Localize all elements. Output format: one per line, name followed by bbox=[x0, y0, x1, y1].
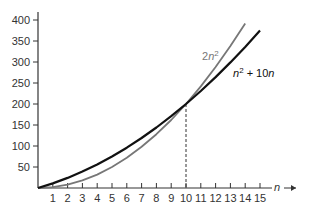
x-tick-label: 3 bbox=[79, 192, 85, 204]
x-tick-label: 2 bbox=[65, 192, 71, 204]
y-tick-label: 300 bbox=[12, 56, 30, 68]
x-tick-label: 5 bbox=[109, 192, 115, 204]
x-tick-label: 9 bbox=[168, 192, 174, 204]
axes: 5010015020025030035040012345678910111213… bbox=[12, 12, 296, 204]
x-tick-label: 13 bbox=[224, 192, 236, 204]
y-tick-label: 200 bbox=[12, 98, 30, 110]
x-axis-label: n bbox=[274, 181, 280, 193]
y-tick-label: 50 bbox=[18, 161, 30, 173]
x-tick-label: 4 bbox=[94, 192, 100, 204]
x-tick-label: 15 bbox=[254, 192, 266, 204]
arrow-icon bbox=[291, 185, 296, 191]
y-tick-label: 150 bbox=[12, 119, 30, 131]
x-tick-label: 1 bbox=[50, 192, 56, 204]
curves bbox=[38, 23, 260, 188]
x-tick-label: 11 bbox=[195, 192, 206, 204]
y-tick-label: 400 bbox=[12, 14, 30, 26]
x-tick-label: 7 bbox=[139, 192, 145, 204]
y-tick-label: 350 bbox=[12, 35, 30, 47]
label-n-squared-plus-10n: n2 + 10n bbox=[233, 66, 274, 79]
x-tick-label: 12 bbox=[209, 192, 221, 204]
series-line-n-squared-plus-10n bbox=[38, 31, 260, 189]
y-tick-label: 250 bbox=[12, 77, 30, 89]
x-tick-label: 10 bbox=[180, 192, 192, 204]
label-2n-squared: 2n2 bbox=[202, 49, 219, 62]
x-tick-label: 14 bbox=[239, 192, 251, 204]
x-tick-label: 6 bbox=[124, 192, 130, 204]
y-tick-label: 100 bbox=[12, 140, 30, 152]
chart: 5010015020025030035040012345678910111213… bbox=[0, 0, 310, 213]
x-tick-label: 8 bbox=[153, 192, 159, 204]
